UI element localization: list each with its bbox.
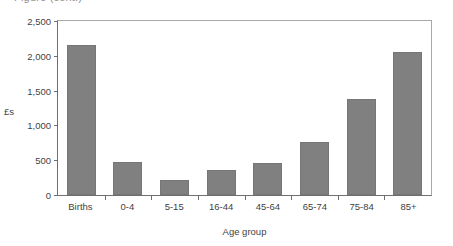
x-axis-tick-labels: Births0-45-1516-4445-6465-7475-8485+	[57, 201, 432, 212]
bar-slot	[198, 21, 245, 195]
bar-slot	[105, 21, 152, 195]
bar[interactable]	[207, 170, 236, 195]
bar-slot	[384, 21, 431, 195]
y-axis-tick-mark	[54, 21, 58, 22]
cropped-chart-title: Figure (cont.)	[14, 0, 82, 3]
y-axis-tick-mark	[54, 91, 58, 92]
x-axis-tick-mark	[198, 195, 199, 200]
x-axis-tick-mark	[291, 195, 292, 200]
bar[interactable]	[347, 99, 376, 195]
bar[interactable]	[300, 142, 329, 195]
x-axis-tick-label: 0-4	[104, 201, 151, 212]
y-axis-tick-label: 2,000	[27, 50, 51, 61]
x-axis-tick-label: 16-44	[198, 201, 245, 212]
bar[interactable]	[67, 45, 96, 195]
bar-slot	[151, 21, 198, 195]
x-axis-tick-label: 65-74	[291, 201, 338, 212]
x-axis-tick-mark	[384, 195, 385, 200]
x-axis-tick-label: 5-15	[151, 201, 198, 212]
x-axis-tick-label: Births	[57, 201, 104, 212]
y-axis-tick-label: 1,500	[27, 85, 51, 96]
x-axis-tick-label: 85+	[385, 201, 432, 212]
bar-series	[58, 21, 431, 195]
bar-slot	[291, 21, 338, 195]
y-axis-tick-label: 2,500	[27, 16, 51, 27]
x-axis-tick-label: 75-84	[338, 201, 385, 212]
x-axis-tick-mark	[245, 195, 246, 200]
bar[interactable]	[253, 163, 282, 195]
bar[interactable]	[113, 162, 142, 195]
y-axis-tick-mark	[54, 160, 58, 161]
y-axis-tick-mark	[54, 125, 58, 126]
y-axis-tick-label: 1,000	[27, 120, 51, 131]
x-axis-tick-label: 45-64	[245, 201, 292, 212]
x-axis-title: Age group	[57, 226, 432, 237]
y-axis-tick-mark	[54, 56, 58, 57]
y-axis-tick-label: 0	[46, 190, 51, 201]
x-axis-tick-mark	[151, 195, 152, 200]
y-axis-tick-mark	[54, 195, 58, 196]
bar[interactable]	[160, 180, 189, 195]
y-axis-title: £s	[4, 106, 14, 117]
bar-slot	[245, 21, 292, 195]
x-axis-tick-mark	[338, 195, 339, 200]
bar[interactable]	[393, 52, 422, 195]
bar-slot	[338, 21, 385, 195]
bar-slot	[58, 21, 105, 195]
plot-area: 05001,0001,5002,0002,500	[57, 20, 432, 196]
y-axis-tick-label: 500	[35, 155, 51, 166]
x-axis-tick-mark	[105, 195, 106, 200]
